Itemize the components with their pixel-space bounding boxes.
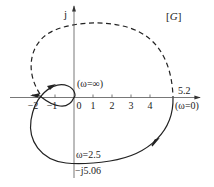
imag-intercept-label: −j5.06: [75, 165, 101, 176]
imag-axis-label: j: [63, 8, 67, 20]
omega-2-5-label: ω=2.5: [76, 149, 101, 160]
omega-infinity-label: (ω=∞): [77, 78, 103, 90]
nyquist-diagram: j [G] (ω=∞) 5.2 (ω=0) ω=2.5 −j5.06 −2−10…: [0, 0, 214, 187]
x-tick-marks: [36, 95, 150, 98]
x-tick-label: 1: [91, 100, 96, 111]
direction-arrow-icon: [30, 93, 40, 98]
solid-curve: [31, 85, 173, 164]
diagram-title: [G]: [166, 10, 181, 22]
x-tick-label: −1: [47, 100, 58, 111]
omega-zero-label: (ω=0): [175, 100, 199, 112]
x-tick-label: 2: [110, 100, 115, 111]
x-tick-label: 3: [129, 100, 134, 111]
x-tick-label: −2: [28, 100, 39, 111]
x-tick-labels: −2−101234: [28, 100, 153, 111]
x-tick-label: 4: [148, 100, 153, 111]
real-intercept-label: 5.2: [178, 85, 191, 96]
x-tick-label: 0: [77, 100, 82, 111]
